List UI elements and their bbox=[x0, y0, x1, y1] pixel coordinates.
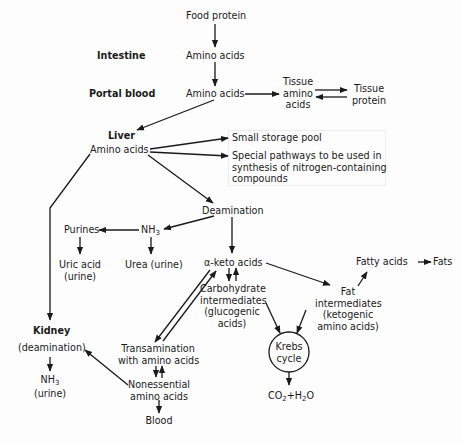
node-fats: Fats bbox=[433, 256, 452, 268]
node-food-protein: Food protein bbox=[186, 10, 246, 22]
label-liver: Liver bbox=[108, 130, 135, 142]
node-small-storage-pool: Small storage pool bbox=[232, 132, 322, 144]
node-amino-acids-portal: Amino acids bbox=[186, 88, 244, 100]
node-fat-intermediates: Fat intermediates (ketogenic amino acids… bbox=[315, 286, 381, 332]
node-amino-acids-intestine: Amino acids bbox=[186, 50, 244, 62]
node-purines: Purines bbox=[64, 224, 99, 236]
node-transamination: Transamination with amino acids bbox=[118, 343, 198, 366]
connector-arrows bbox=[0, 0, 462, 443]
node-nh3: NH3 bbox=[141, 224, 160, 236]
node-kidney-urine: (urine) bbox=[30, 388, 70, 400]
node-uric-acid: Uric acid (urine) bbox=[58, 259, 102, 282]
label-kidney: Kidney bbox=[33, 325, 70, 337]
node-fatty-acids: Fatty acids bbox=[356, 256, 408, 268]
node-krebs-cycle: Krebs cycle bbox=[269, 341, 309, 364]
node-urea: Urea (urine) bbox=[125, 259, 183, 271]
label-intestine: Intestine bbox=[97, 50, 145, 62]
amino-acid-metabolism-diagram: Intestine Portal blood Liver Kidney Food… bbox=[0, 0, 462, 443]
node-deamination: Deamination bbox=[202, 205, 264, 217]
node-carbohydrate-intermediates: Carbohydrate intermediates (glucogenic a… bbox=[200, 283, 264, 329]
node-kidney-nh3: NH3 bbox=[33, 374, 67, 386]
node-tissue-protein: Tissue protein bbox=[349, 83, 389, 106]
node-amino-acids-liver: Amino acids bbox=[90, 144, 148, 156]
node-nonessential-amino-acids: Nonessential amino acids bbox=[124, 379, 194, 402]
node-alpha-keto-acids: α-keto acids bbox=[204, 257, 263, 269]
node-blood: Blood bbox=[141, 415, 177, 427]
label-portal-blood: Portal blood bbox=[89, 88, 155, 100]
node-kidney-deamination: (deamination) bbox=[18, 342, 84, 354]
node-special-pathways: Special pathways to be used in synthesis… bbox=[232, 150, 387, 185]
node-co2-h2o: CO2+H2O bbox=[268, 390, 314, 402]
node-tissue-amino-acids: Tissue amino acids bbox=[280, 76, 316, 111]
